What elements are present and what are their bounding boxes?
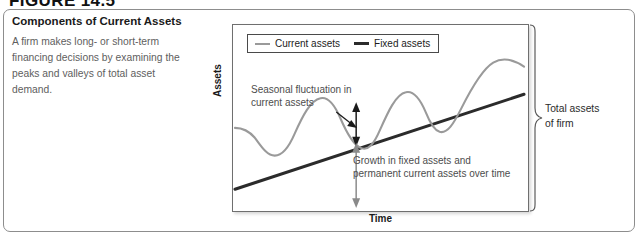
annotation-growth-in-fixed-assets: Growth in fixed assets and permanent cur… [353, 154, 518, 181]
annotation-seasonal-fluctuation: Seasonal fluctuation in current assets [251, 83, 356, 110]
legend-item-fixed-assets: Fixed assets [354, 38, 430, 49]
legend-item-current-assets: Current assets [255, 38, 340, 49]
figure-container: FIGURE 14.5 Components of Current Assets… [0, 0, 639, 240]
total-assets-of-firm-label: Total assets of firm [545, 101, 601, 132]
legend-label-current-assets: Current assets [275, 38, 340, 49]
chart-legend: Current assets Fixed assets [247, 34, 439, 53]
caption-title: Components of Current Assets [12, 14, 184, 29]
y-axis-title: Assets [212, 64, 223, 97]
chart-plot-area: Current assets Fixed assets Seasonal flu… [232, 24, 529, 212]
caption-body: A firm makes long- or short-term financi… [12, 34, 184, 98]
caption-panel: Components of Current Assets A firm make… [12, 14, 184, 98]
x-axis-title: Time [232, 213, 529, 224]
total-assets-brace-icon [529, 24, 543, 212]
seasonal-annotation-arrow [336, 112, 357, 128]
legend-swatch-current-assets-icon [255, 43, 270, 45]
legend-label-fixed-assets: Fixed assets [374, 38, 430, 49]
legend-swatch-fixed-assets-icon [354, 42, 369, 45]
